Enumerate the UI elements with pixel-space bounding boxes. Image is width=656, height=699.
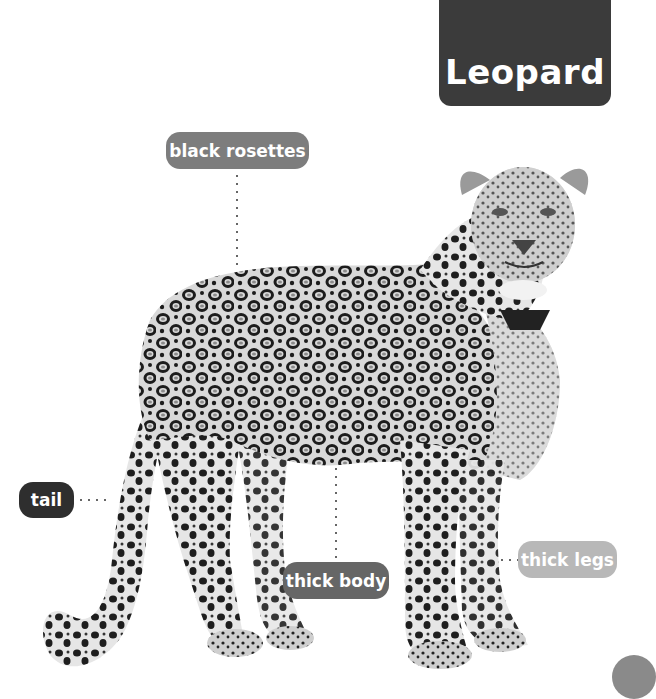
label-tail: tail <box>19 482 74 518</box>
label-black-rosettes: black rosettes <box>166 132 309 169</box>
page-title: Leopard <box>445 52 605 92</box>
label-thick-legs-text: thick legs <box>521 550 614 570</box>
leader-line-tail <box>77 499 107 501</box>
label-thick-legs: thick legs <box>518 541 617 578</box>
corner-decoration <box>612 655 656 699</box>
leader-line-rosettes <box>236 172 238 268</box>
leader-line-legs <box>498 559 518 561</box>
label-tail-text: tail <box>31 490 62 510</box>
leader-line-body <box>335 465 337 560</box>
title-tab: Leopard <box>439 0 611 106</box>
label-black-rosettes-text: black rosettes <box>169 141 305 161</box>
label-thick-body-text: thick body <box>286 571 386 591</box>
label-thick-body: thick body <box>283 562 389 599</box>
